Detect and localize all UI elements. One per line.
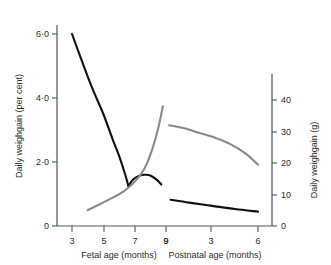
right-axis-ticks: 40 30 20 10 0 bbox=[272, 95, 291, 231]
left-axis-ticks: 6·0 4·0 2·0 0 bbox=[36, 29, 57, 231]
fetal-axis-ticks: 3 5 7 9 bbox=[69, 226, 168, 246]
right-tick-label-0: 0 bbox=[281, 221, 286, 231]
left-tick-label-4: 4·0 bbox=[36, 93, 49, 103]
right-tick-label-40: 40 bbox=[281, 95, 291, 105]
series-fetal-percent bbox=[72, 34, 128, 186]
postnatal-axis-title: Postnatal age (months) bbox=[168, 250, 261, 260]
fetal-tick-label-7: 7 bbox=[132, 236, 137, 246]
right-tick-label-20: 20 bbox=[281, 158, 291, 168]
fetal-tick-label-5: 5 bbox=[101, 236, 106, 246]
chart-figure: 6·0 4·0 2·0 0 40 30 20 10 0 3 5 7 bbox=[0, 0, 331, 265]
series-postnatal-percent bbox=[171, 200, 258, 212]
left-tick-label-0: 0 bbox=[44, 221, 49, 231]
left-tick-label-2: 2·0 bbox=[36, 157, 49, 167]
series-postnatal-grams bbox=[169, 125, 258, 164]
left-tick-label-6: 6·0 bbox=[36, 29, 49, 39]
postnatal-tick-label-9: 9 bbox=[163, 236, 168, 246]
axis-lines bbox=[57, 25, 272, 226]
series-fetal-grams bbox=[88, 106, 163, 210]
right-tick-label-10: 10 bbox=[281, 190, 291, 200]
right-axis-title: Daily weighgain (g) bbox=[309, 122, 319, 199]
left-axis-title: Daily weighgain (per cent) bbox=[14, 74, 24, 178]
right-tick-label-30: 30 bbox=[281, 127, 291, 137]
postnatal-axis-ticks: 9 3 6 bbox=[163, 226, 260, 246]
fetal-tick-label-3: 3 bbox=[69, 236, 74, 246]
fetal-axis-title: Fetal age (months) bbox=[81, 250, 157, 260]
chart-canvas: 6·0 4·0 2·0 0 40 30 20 10 0 3 5 7 bbox=[0, 0, 331, 265]
postnatal-tick-label-6: 6 bbox=[255, 236, 260, 246]
data-curves bbox=[72, 34, 258, 212]
postnatal-tick-label-3: 3 bbox=[208, 236, 213, 246]
